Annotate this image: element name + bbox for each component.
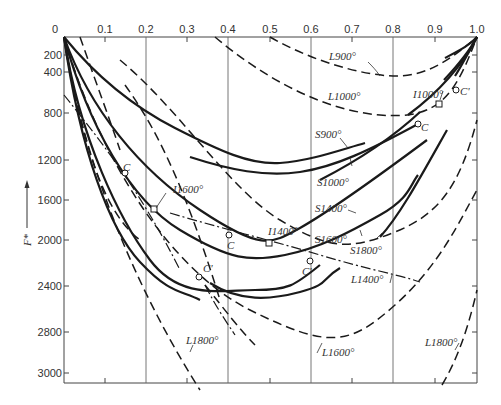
svg-text:0: 0	[52, 23, 58, 35]
svg-text:2000: 2000	[38, 234, 62, 246]
svg-text:0.4: 0.4	[220, 23, 235, 35]
svg-text:0.7: 0.7	[344, 23, 359, 35]
svg-text:0.6: 0.6	[303, 23, 318, 35]
svg-text:1.0: 1.0	[469, 23, 484, 35]
marker-cprime-1	[196, 274, 202, 280]
svg-text:1200: 1200	[38, 154, 62, 166]
svg-text:C: C	[227, 239, 235, 251]
svg-text:C': C'	[302, 265, 312, 277]
svg-text:S900°: S900°	[315, 128, 342, 140]
curve-labels: L900° L1000° S900° S1000° S1400° S1600° …	[172, 50, 458, 358]
svg-text:L1400°: L1400°	[350, 273, 384, 285]
svg-text:L1800°: L1800°	[424, 336, 458, 348]
leader-lines	[156, 62, 459, 353]
svg-text:F*: F*	[21, 233, 33, 247]
svg-text:0.3: 0.3	[179, 23, 194, 35]
up-arrow-icon	[25, 180, 30, 188]
svg-text:2800: 2800	[38, 326, 62, 338]
marker-i1400	[266, 240, 272, 246]
svg-text:I1600°: I1600°	[172, 183, 204, 195]
marker-cprime-3	[453, 87, 459, 93]
svg-text:I1400°: I1400°	[267, 225, 299, 237]
curve-s900	[64, 37, 365, 163]
y-axis-title: F*	[21, 180, 33, 247]
svg-text:0.9: 0.9	[427, 23, 442, 35]
svg-text:0.8: 0.8	[385, 23, 400, 35]
svg-text:1600: 1600	[38, 194, 62, 206]
marker-c-2	[226, 232, 232, 238]
svg-text:0.2: 0.2	[138, 23, 153, 35]
svg-text:C: C	[421, 121, 429, 133]
curve-right-3	[455, 37, 477, 76]
svg-text:L1800°: L1800°	[185, 334, 219, 346]
marker-i1600	[151, 206, 157, 212]
gridlines	[146, 37, 393, 383]
y-tick-labels: 200 400 800 1200 1600 2000 2400 2800 300…	[38, 49, 62, 379]
svg-text:C': C'	[460, 85, 470, 97]
svg-text:C: C	[123, 161, 131, 173]
marker-cprime-2	[307, 258, 313, 264]
svg-text:L900°: L900°	[328, 50, 357, 62]
svg-text:2400: 2400	[38, 280, 62, 292]
curve-s1600	[64, 37, 418, 258]
svg-text:S1400°: S1400°	[315, 202, 348, 214]
svg-text:400: 400	[44, 66, 62, 78]
curve-mid-right	[320, 112, 420, 180]
svg-text:I1000°: I1000°	[412, 88, 444, 100]
x-tick-labels: 0 0.1 0.2 0.3 0.4 0.5 0.6 0.7 0.8 0.9 1.…	[52, 23, 485, 35]
marker-i1000	[436, 101, 442, 107]
curve-l1800-left	[64, 37, 200, 390]
svg-text:3000: 3000	[38, 367, 62, 379]
svg-text:L1600°: L1600°	[321, 346, 355, 358]
svg-text:L1000°: L1000°	[327, 90, 361, 102]
curve-lower-arc	[64, 37, 320, 291]
curve-lower-arc-2	[64, 37, 200, 300]
svg-text:800: 800	[44, 107, 62, 119]
curve-lower-arc-3	[210, 268, 340, 298]
svg-text:0.1: 0.1	[97, 23, 112, 35]
svg-text:S1800°: S1800°	[350, 244, 383, 256]
phase-diagram-chart: 0 0.1 0.2 0.3 0.4 0.5 0.6 0.7 0.8 0.9 1.…	[0, 0, 501, 405]
svg-text:200: 200	[44, 49, 62, 61]
svg-text:0.5: 0.5	[262, 23, 277, 35]
curve-s1000	[190, 124, 418, 174]
svg-text:S1000°: S1000°	[317, 176, 350, 188]
svg-text:C': C'	[203, 262, 213, 274]
svg-text:S1600°: S1600°	[315, 233, 348, 245]
